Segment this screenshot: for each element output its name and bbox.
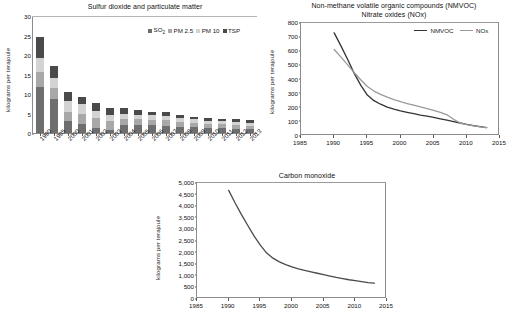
bar-segment-TSP — [36, 37, 43, 58]
bar-segment-TSP — [106, 108, 113, 115]
chart-nmvoc-nox: Non-methane volatile organic compounds (… — [262, 0, 521, 172]
bar-2003[interactable] — [106, 108, 113, 133]
x-tick-label-2010: 2010 — [459, 139, 473, 146]
bar-segment-PM-10 — [64, 101, 71, 112]
x-tick-label-1985: 1985 — [293, 139, 307, 146]
x-tick-mark — [386, 298, 387, 301]
y-tick-label: 2,000 — [152, 248, 197, 255]
x-tick-mark — [259, 298, 260, 301]
chart-title-co: Carbon monoxide — [192, 172, 422, 181]
y-tick-label: 10 — [0, 91, 34, 98]
x-tick-mark — [196, 298, 197, 301]
bar-segment-PM-10 — [36, 58, 43, 72]
legend-item-NMVOC[interactable]: NMVOC — [414, 27, 454, 34]
y-tick-label: 400 — [262, 75, 301, 82]
x-tick-mark — [366, 135, 367, 138]
y-tick-label: 100 — [262, 117, 301, 124]
y-tick-label: 2,500 — [152, 237, 197, 244]
plot-area-nmvoc — [300, 22, 499, 135]
x-tick-label-1990: 1990 — [326, 139, 340, 146]
bar-segment-TSP — [92, 103, 99, 110]
bar-segment-TSP — [50, 66, 57, 78]
y-tick-label: 5,000 — [152, 179, 197, 186]
x-tick-label-1985: 1985 — [189, 302, 203, 309]
y-tick-label: 1,000 — [152, 271, 197, 278]
x-tick-label-2015: 2015 — [379, 302, 393, 309]
bar-segment-PM-10 — [92, 111, 99, 118]
bar-2002[interactable] — [92, 103, 99, 133]
figure-root: Sulfur dioxide and particulate matter ki… — [0, 0, 521, 336]
y-tick-label: 500 — [152, 283, 197, 290]
bar-segment-PM-2-5 — [64, 112, 71, 121]
legend-swatch-icon — [196, 29, 200, 33]
legend-label: SO2 — [154, 26, 166, 35]
legend-swatch-icon — [148, 29, 152, 33]
x-tick-label-2015: 2015 — [492, 139, 506, 146]
bar-segment-PM-10 — [50, 78, 57, 89]
bar-segment-PM-2-5 — [78, 114, 85, 124]
y-tick-label: 0 — [262, 132, 301, 139]
y-tick-label: 800 — [262, 19, 301, 26]
x-tick-mark — [354, 298, 355, 301]
bar-2004[interactable] — [120, 108, 127, 133]
x-tick-label-2000: 2000 — [393, 139, 407, 146]
legend-item-SO2[interactable]: SO2 — [148, 26, 165, 35]
line-path-NOx — [334, 50, 487, 128]
legend-item-TSP[interactable]: TSP — [223, 27, 241, 34]
y-axis-so2 — [32, 16, 33, 134]
legend-item-PM-2-5[interactable]: PM 2.5 — [168, 27, 193, 34]
legend-swatch-icon — [168, 29, 172, 33]
y-tick-label: 700 — [262, 33, 301, 40]
line-series-co — [197, 183, 387, 299]
legend-label: NOx — [476, 27, 488, 34]
y-tick-label: 3,000 — [152, 225, 197, 232]
bar-segment-PM-2-5 — [50, 88, 57, 99]
bar-segment-PM-2-5 — [106, 121, 113, 130]
line-path-NMVOC — [334, 33, 487, 128]
y-tick-label: 3,500 — [152, 213, 197, 220]
bar-segment-TSP — [64, 92, 71, 101]
x-tick-label-2000: 2000 — [284, 302, 298, 309]
legend-item-PM-10[interactable]: PM 10 — [196, 27, 219, 34]
x-tick-mark — [323, 298, 324, 301]
legend-label-subscript: 2 — [162, 30, 165, 35]
bar-1990[interactable] — [36, 37, 43, 133]
x-tick-label-2005: 2005 — [316, 302, 330, 309]
legend-label: TSP — [228, 27, 240, 34]
bar-segment-SO2 — [36, 87, 43, 133]
legend-line-icon — [414, 30, 427, 31]
chart-title-so2: Sulfur dioxide and particulate matter — [30, 3, 260, 12]
bar-2005[interactable] — [134, 110, 141, 133]
x-tick-mark — [333, 135, 334, 138]
chart-sulfur-dioxide-particulate-matter: Sulfur dioxide and particulate matter ki… — [0, 0, 262, 172]
y-tick-label: 25 — [0, 32, 34, 39]
y-tick-label: 1,500 — [152, 260, 197, 267]
chart-title-nmvoc-line1: Non-methane volatile organic compounds (… — [270, 2, 518, 11]
bar-1995[interactable] — [50, 66, 57, 133]
legend-so2: SO2PM 2.5PM 10TSP — [148, 26, 240, 35]
x-tick-label-1995: 1995 — [252, 302, 266, 309]
y-tick-label: 500 — [262, 61, 301, 68]
x-tick-mark — [433, 135, 434, 138]
y-tick-label: 5 — [0, 110, 34, 117]
y-tick-label: 20 — [0, 52, 34, 59]
legend-label: PM 10 — [202, 27, 220, 34]
legend-label: NMVOC — [431, 27, 454, 34]
x-tick-label-1995: 1995 — [359, 139, 373, 146]
x-tick-label-2010: 2010 — [347, 302, 361, 309]
legend-item-NOx[interactable]: NOx — [460, 27, 489, 34]
legend-line-icon — [460, 30, 473, 31]
x-tick-mark — [300, 135, 301, 138]
bar-2000[interactable] — [64, 92, 71, 133]
y-tick-label: 200 — [262, 103, 301, 110]
x-tick-mark — [228, 298, 229, 301]
x-tick-mark — [291, 298, 292, 301]
bar-segment-SO2 — [50, 99, 57, 133]
legend-swatch-icon — [223, 29, 227, 33]
line-series-nmvoc-nox — [301, 23, 500, 136]
bar-segment-PM-10 — [78, 104, 85, 114]
plot-area-co — [196, 182, 386, 298]
y-tick-label: 4,500 — [152, 190, 197, 197]
line-path-Carbon-monoxide — [229, 190, 375, 283]
bar-2001[interactable] — [78, 97, 85, 133]
